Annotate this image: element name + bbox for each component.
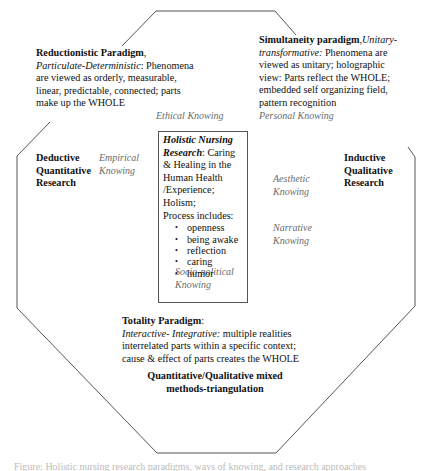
ethical-knowing-label: Ethical Knowing bbox=[156, 110, 224, 123]
reductionistic-paradigm-title: Reductionistic Paradigm bbox=[36, 47, 144, 58]
totality-paradigm-colon: : bbox=[201, 315, 204, 326]
personal-knowing-label: Personal Knowing bbox=[259, 110, 334, 123]
totality-paradigm-subtitle: Interactive- Integrative: bbox=[122, 328, 220, 339]
mixed-methods-label: Quantitative/Qualitative mixed methods-t… bbox=[145, 370, 285, 395]
totality-paradigm-block: Totality Paradigm: Interactive- Integrat… bbox=[122, 315, 312, 365]
inductive-qualitative-research-label: Inductive Qualitative Research bbox=[344, 152, 404, 190]
frame-top-right-diagonal bbox=[275, 11, 296, 35]
process-list: openness being awake reflection caring h… bbox=[163, 222, 243, 279]
simultaneity-paradigm-block: Simultaneity paradigm,Unitary-transforma… bbox=[259, 34, 409, 110]
process-item: humor bbox=[175, 268, 243, 279]
reductionistic-paradigm-block: Reductionistic Paradigm, Particulate-Det… bbox=[36, 47, 196, 110]
process-item: openness bbox=[175, 222, 243, 233]
simultaneity-paradigm-title: Simultaneity paradigm bbox=[259, 34, 359, 45]
process-item: caring bbox=[175, 256, 243, 267]
deductive-quantitative-research-label: Deductive Quantitative Research bbox=[36, 152, 96, 190]
process-includes-label: Process includes: bbox=[163, 210, 243, 223]
process-item: reflection bbox=[175, 245, 243, 256]
aesthetic-knowing-label: Aesthetic Knowing bbox=[273, 173, 318, 198]
frame-right-upper-diagonal bbox=[408, 147, 415, 157]
narrative-knowing-label: Narrative Knowing bbox=[273, 222, 318, 247]
frame-left-upper-diagonal bbox=[17, 122, 50, 156]
process-item: being awake bbox=[175, 234, 243, 245]
figure-caption: Figure: Holistic nursing research paradi… bbox=[14, 461, 414, 471]
totality-paradigm-title: Totality Paradigm bbox=[122, 315, 201, 326]
frame-top-left-diagonal bbox=[122, 11, 156, 46]
holistic-nursing-research-box: Holistic Nursing Research: Caring & Heal… bbox=[158, 131, 248, 303]
empirical-knowing-label: Empirical Knowing bbox=[99, 152, 147, 177]
